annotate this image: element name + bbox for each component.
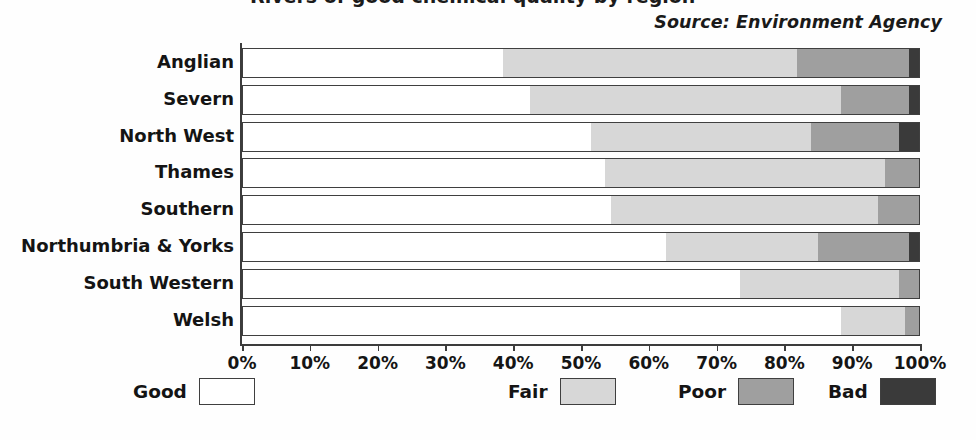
bar-segment-poor — [905, 307, 919, 335]
category-label: North West — [6, 125, 234, 146]
bar-segment-good — [243, 86, 530, 114]
x-axis-tick — [242, 344, 244, 351]
bar-row — [242, 48, 920, 78]
bar-segment-good — [243, 233, 666, 261]
bar-segment-good — [243, 123, 591, 151]
x-axis-tick — [581, 344, 583, 351]
legend-swatch-poor — [738, 378, 794, 405]
bar-row — [242, 158, 920, 188]
x-axis-tick — [310, 344, 312, 351]
bar-row — [242, 269, 920, 299]
x-axis-tick-label: 70% — [696, 353, 737, 373]
bar-row — [242, 122, 920, 152]
x-axis-tick — [717, 344, 719, 351]
x-axis-tick-label: 10% — [289, 353, 330, 373]
bar-segment-bad — [909, 233, 919, 261]
legend-label: Bad — [828, 381, 868, 402]
legend-label: Fair — [508, 381, 548, 402]
bar-segment-poor — [899, 270, 919, 298]
legend-label: Poor — [678, 381, 726, 402]
bar-segment-poor — [818, 233, 909, 261]
x-axis-tick-label: 90% — [832, 353, 873, 373]
bar-segment-fair — [841, 307, 905, 335]
category-label: Southern — [6, 198, 234, 219]
bar-segment-good — [243, 196, 611, 224]
x-axis-tick — [445, 344, 447, 351]
category-label: Thames — [6, 161, 234, 182]
category-label: Anglian — [6, 51, 234, 72]
x-axis-tick-label: 30% — [425, 353, 466, 373]
x-axis-tick — [649, 344, 651, 351]
bar-segment-poor — [878, 196, 919, 224]
plot-area: 0%10%20%30%40%50%60%70%80%90%100% — [242, 47, 920, 342]
x-axis-tick-label: 60% — [628, 353, 669, 373]
legend-label: Good — [133, 381, 187, 402]
bar-segment-fair — [503, 49, 797, 77]
bar-row — [242, 195, 920, 225]
legend-item-fair[interactable]: Fair — [508, 378, 616, 405]
x-axis-tick-label: 20% — [357, 353, 398, 373]
bar-segment-poor — [841, 86, 909, 114]
x-axis-tick — [513, 344, 515, 351]
legend-swatch-good — [199, 378, 255, 405]
category-label: Welsh — [6, 309, 234, 330]
category-label: South Western — [6, 272, 234, 293]
legend-item-poor[interactable]: Poor — [678, 378, 794, 405]
bar-segment-bad — [909, 86, 919, 114]
bar-row — [242, 306, 920, 336]
chart-figure: Rivers of good chemical quality by regio… — [0, 0, 976, 440]
cropped-chart-title: Rivers of good chemical quality by regio… — [0, 0, 976, 8]
x-axis-tick — [852, 344, 854, 351]
chart-legend: GoodFairPoorBad — [0, 378, 976, 424]
x-axis-tick-label: 80% — [764, 353, 805, 373]
chart-title-text: Rivers of good chemical quality by regio… — [250, 0, 695, 7]
x-axis-tick-label: 100% — [894, 353, 947, 373]
legend-swatch-bad — [880, 378, 936, 405]
bar-row — [242, 232, 920, 262]
bar-segment-poor — [885, 159, 919, 187]
x-axis-tick — [784, 344, 786, 351]
x-axis-tick-label: 40% — [493, 353, 534, 373]
bar-row — [242, 85, 920, 115]
category-label: Severn — [6, 88, 234, 109]
bar-segment-fair — [740, 270, 899, 298]
x-axis-tick-label: 0% — [228, 353, 257, 373]
bar-segment-good — [243, 159, 605, 187]
bar-segment-bad — [899, 123, 919, 151]
category-label: Northumbria & Yorks — [6, 235, 234, 256]
legend-item-bad[interactable]: Bad — [828, 378, 936, 405]
x-axis-tick — [920, 344, 922, 351]
legend-item-good[interactable]: Good — [133, 378, 255, 405]
bar-segment-good — [243, 49, 503, 77]
bar-segment-fair — [530, 86, 841, 114]
bar-segment-fair — [591, 123, 811, 151]
source-note: Source: Environment Agency — [654, 12, 942, 32]
bar-segment-fair — [666, 233, 818, 261]
bar-segment-poor — [797, 49, 909, 77]
bar-segment-good — [243, 307, 841, 335]
bar-segment-fair — [605, 159, 886, 187]
legend-swatch-fair — [560, 378, 616, 405]
bar-segment-poor — [811, 123, 899, 151]
bar-segment-good — [243, 270, 740, 298]
category-axis-labels: AnglianSevernNorth WestThamesSouthernNor… — [4, 47, 234, 342]
x-axis-tick — [378, 344, 380, 351]
bar-segment-fair — [611, 196, 878, 224]
bar-segment-bad — [909, 49, 919, 77]
x-axis-tick-label: 50% — [561, 353, 602, 373]
